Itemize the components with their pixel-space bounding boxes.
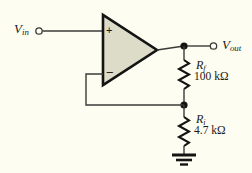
vout-subscript: out xyxy=(230,43,241,53)
wire-opamp-output xyxy=(157,46,184,50)
vout-symbol: V xyxy=(222,37,230,52)
wire-feedback-to-inverting-input xyxy=(86,74,184,105)
circuit-schematic-canvas xyxy=(0,0,252,173)
rf-value-label: 100 kΩ xyxy=(194,71,228,83)
resistor-ri-zigzag xyxy=(179,117,189,146)
vin-label: Vin xyxy=(14,22,29,35)
opamp-noninverting-input-sign: + xyxy=(106,25,112,36)
ri-value-label: 4.7 kΩ xyxy=(194,125,226,137)
opamp-inverting-input-sign: − xyxy=(106,66,114,79)
vout-label: Vout xyxy=(222,38,241,51)
vin-subscript: in xyxy=(22,27,29,37)
vout-terminal-circle xyxy=(210,43,216,49)
circuit-diagram: Vin Vout Rf 100 kΩ Ri 4.7 kΩ + − xyxy=(0,0,252,173)
vin-symbol: V xyxy=(14,21,22,36)
vin-terminal-circle xyxy=(36,28,42,34)
resistor-rf-zigzag xyxy=(179,60,189,89)
